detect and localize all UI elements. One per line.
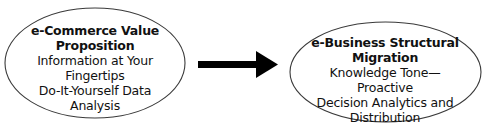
right-node-title-line-1: e-Business Structural (302, 35, 468, 50)
right-node-title-line-2: Migration (302, 50, 468, 65)
left-node-body-line-2: Fingertips (20, 68, 170, 83)
right-node-body-line-1: Knowledge Tone—Proactive (302, 65, 468, 95)
left-node-title-line-1: e-Commerce Value (20, 23, 170, 38)
left-node-title-line-2: Proposition (20, 38, 170, 53)
left-node-body-line-4: Analysis (20, 98, 170, 113)
left-node-body-line-1: Information at Your (20, 53, 170, 68)
right-node-text: e-Business Structural Migration Knowledg… (302, 35, 468, 125)
right-node-body-line-2: Decision Analytics and (302, 95, 468, 110)
left-node-text: e-Commerce Value Proposition Information… (20, 23, 170, 113)
arrow-right-icon (198, 51, 278, 78)
left-node-body-line-3: Do-It-Yourself Data (20, 83, 170, 98)
right-node-body-line-3: Distribution (302, 110, 468, 125)
